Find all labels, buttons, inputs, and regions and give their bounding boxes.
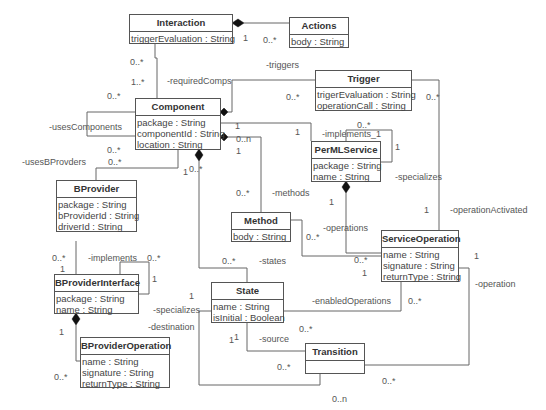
class-actions[interactable]: Actions body : String <box>289 17 349 48</box>
class-serviceoperation[interactable]: ServiceOperation name : String signature… <box>381 230 459 282</box>
class-attributes: package : String name : String <box>312 159 380 183</box>
class-attributes: name : String isInitial : Boolean <box>212 300 283 324</box>
multiplicity: 0..* <box>108 157 122 167</box>
multiplicity: 1 <box>395 142 400 152</box>
class-name: Transition <box>306 344 364 361</box>
attribute: name : String <box>383 249 457 260</box>
role-label: -states <box>259 256 286 266</box>
attribute: operationCall : String <box>317 100 410 111</box>
class-name: PerMLService <box>312 142 380 159</box>
class-name: ServiceOperation <box>382 231 458 248</box>
multiplicity: 0..* <box>408 296 422 306</box>
multiplicity: 0..* <box>426 92 440 102</box>
multiplicity: 1 <box>329 197 334 207</box>
class-name: BProviderInterface <box>55 275 138 292</box>
multiplicity: 0..* <box>236 188 250 198</box>
class-attributes: triggerEvaluation : String <box>130 32 232 45</box>
class-name: Interaction <box>130 15 232 32</box>
class-attributes: body : String <box>290 35 348 48</box>
class-name: Component <box>136 99 220 116</box>
multiplicity: 1 <box>183 167 188 177</box>
attribute: signature : String <box>383 260 457 271</box>
attribute: bProviderId : String <box>58 210 135 221</box>
attribute: signature : String <box>82 367 168 378</box>
multiplicity: 0..* <box>147 253 161 263</box>
multiplicity: 1..* <box>131 77 145 87</box>
multiplicity: 1 <box>362 268 367 278</box>
multiplicity: 1 <box>243 33 248 43</box>
multiplicity: 0..* <box>263 35 277 45</box>
role-label: -destination <box>148 322 195 332</box>
attribute: location : String <box>137 139 219 150</box>
class-attributes: body : String <box>232 230 290 243</box>
class-bproviderinterface[interactable]: BProviderInterface package : String name… <box>54 274 139 314</box>
role-label: -source <box>259 334 289 344</box>
multiplicity: 1 <box>59 327 64 337</box>
class-attributes: trigerEvaluation : String operationCall … <box>316 88 411 112</box>
multiplicity: 1 <box>60 264 65 274</box>
multiplicity: 0..* <box>354 255 368 265</box>
class-component[interactable]: Component package : String componentId :… <box>135 98 221 150</box>
attribute: body : String <box>233 231 289 242</box>
class-name: Method <box>232 213 290 230</box>
class-state[interactable]: State name : String isInitial : Boolean <box>211 282 284 323</box>
class-attributes: name : String signature : String returnT… <box>81 355 169 390</box>
class-attributes <box>306 361 364 363</box>
class-bprovideroperation[interactable]: BProviderOperation name : String signatu… <box>80 337 170 388</box>
attribute: package : String <box>313 160 379 171</box>
attribute: name : String <box>213 301 282 312</box>
class-attributes: name : String signature : String returnT… <box>382 248 458 283</box>
multiplicity: 1 <box>152 274 157 284</box>
multiplicity: 0..* <box>306 232 320 242</box>
role-label: -operations <box>323 223 368 233</box>
multiplicity: 0..n <box>332 394 347 404</box>
multiplicity: 0..* <box>222 256 236 266</box>
multiplicity: 1 <box>474 251 479 261</box>
class-attributes: package : String componentId : String lo… <box>136 116 220 151</box>
class-name: Trigger <box>316 71 411 88</box>
attribute: package : String <box>137 117 219 128</box>
class-name: Actions <box>290 18 348 35</box>
multiplicity: 0..* <box>54 372 68 382</box>
multiplicity: 1 <box>424 205 429 215</box>
attribute: package : String <box>58 199 135 210</box>
role-label: -operationActivated <box>450 205 528 215</box>
multiplicity: 1 <box>235 121 240 131</box>
role-label: -enabledOperations <box>312 296 391 306</box>
class-attributes: package : String bProviderId : String dr… <box>57 198 136 233</box>
attribute: name : String <box>56 304 137 315</box>
multiplicity: 1 <box>189 291 194 301</box>
class-transition[interactable]: Transition <box>305 343 365 374</box>
attribute: returnType : String <box>383 271 457 282</box>
attribute: body : String <box>291 36 347 47</box>
multiplicity: 0..* <box>107 91 121 101</box>
attribute: componentId : String <box>137 128 219 139</box>
class-permlservice[interactable]: PerMLService package : String name : Str… <box>311 141 381 182</box>
class-method[interactable]: Method body : String <box>231 212 291 242</box>
multiplicity: 0..* <box>107 145 121 155</box>
multiplicity: 0..* <box>130 57 144 67</box>
multiplicity: 0..* <box>286 92 300 102</box>
attribute: returnType : String <box>82 378 168 389</box>
class-name: BProvider <box>57 181 136 198</box>
composition-diamond <box>232 19 244 27</box>
role-label: -triggers <box>266 60 299 70</box>
composition-diamond <box>220 108 228 116</box>
class-bprovider[interactable]: BProvider package : String bProviderId :… <box>56 180 137 232</box>
class-trigger[interactable]: Trigger trigerEvaluation : String operat… <box>315 70 412 111</box>
attribute: triggerEvaluation : String <box>131 33 231 44</box>
class-interaction[interactable]: Interaction triggerEvaluation : String <box>129 14 233 44</box>
attribute: name : String <box>313 171 379 182</box>
multiplicity: 1 <box>234 332 239 342</box>
multiplicity: 1 <box>236 146 241 156</box>
role-label: -usesBProvders <box>22 157 86 167</box>
class-attributes: package : String name : String <box>55 292 138 316</box>
attribute: driverId : String <box>58 221 135 232</box>
class-name: State <box>212 283 283 300</box>
role-label: -operation <box>475 279 516 289</box>
attribute: trigerEvaluation : String <box>317 89 410 100</box>
multiplicity: 0..n <box>236 134 251 144</box>
multiplicity: 0..* <box>382 376 396 386</box>
attribute: isInitial : Boolean <box>213 312 282 323</box>
multiplicity: 0..* <box>189 164 203 174</box>
